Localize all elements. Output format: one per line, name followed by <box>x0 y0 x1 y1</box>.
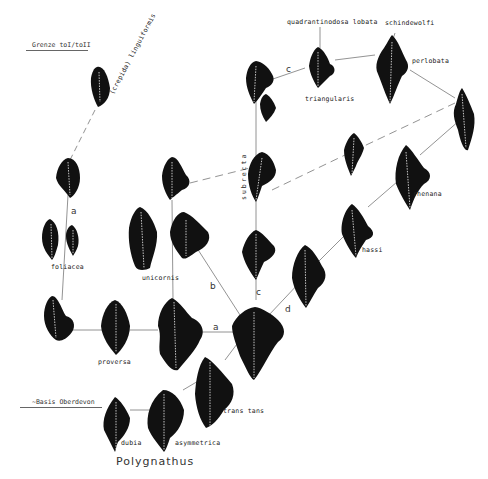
lineage-letter-d: d <box>285 304 291 314</box>
specimen-subrecta-small <box>260 94 276 122</box>
lineage-letter-a-left: a <box>71 206 77 216</box>
specimen-proversa <box>101 300 130 355</box>
specimen-transitans <box>195 357 234 428</box>
line-b <box>195 245 240 315</box>
label-triangularis: triangularis <box>305 95 354 103</box>
dashed-line-linguiformis <box>70 110 95 160</box>
line-unicornis-vertical <box>172 200 173 300</box>
line-schindewolfi-perlobata <box>410 70 455 98</box>
label-perlobata: perlobata <box>412 57 449 65</box>
label-transitans: trans tans <box>223 407 264 415</box>
specimen-quadrantinodosa-lobata <box>309 47 335 88</box>
horizon-label-bottom: ~Basis Oberdevon <box>32 398 95 406</box>
lineage-letter-a-bottom: a <box>213 322 219 332</box>
specimen-center <box>232 307 284 380</box>
specimen-unicornis-left <box>129 207 157 270</box>
line-lobata-schindewolfi <box>335 55 375 60</box>
horizon-line-bottom <box>20 407 102 408</box>
line-rhenana-perlobata <box>420 120 460 155</box>
lineage-letter-b: b <box>210 281 216 291</box>
label-hassi: hassi <box>362 246 383 254</box>
horizon-line-top <box>26 50 88 51</box>
label-unicornis: unicornis <box>142 274 179 282</box>
label-schindewolfi: schindewolfi <box>385 19 434 27</box>
specimen-bottom-left <box>44 296 74 341</box>
lineage-letter-c-mid: c <box>256 287 261 297</box>
specimen-unicornis-right <box>170 212 209 259</box>
phylogeny-diagram: Grenze toI/toII ~Basis Oberdevon (crepid… <box>0 0 488 479</box>
specimens <box>42 35 475 452</box>
specimen-left-top <box>56 158 80 198</box>
label-dubia: dubia <box>121 439 142 447</box>
lineage-letter-c-top: c <box>286 64 291 74</box>
label-asymmetrica: asymmetrica <box>175 439 220 447</box>
specimen-linguiformis <box>91 67 110 107</box>
specimen-rhenana <box>395 145 430 210</box>
label-foliacea: foliacea <box>51 263 84 271</box>
specimen-d <box>292 245 325 308</box>
specimen-foliacea-1 <box>42 219 59 260</box>
specimen-unicornis-top <box>162 157 189 200</box>
label-proversa: proversa <box>98 358 131 366</box>
specimen-center-left <box>158 298 203 370</box>
label-rhenana: rhenana <box>413 190 442 198</box>
horizon-label-top: Grenze toI/toII <box>32 41 91 49</box>
diagram-title: Polygnathus <box>116 455 194 468</box>
label-subrecta: subrecta <box>240 153 248 200</box>
specimen-below-subrecta <box>242 230 275 280</box>
label-quadrantinodosa-lobata: quadrantinodosa lobata <box>287 18 378 26</box>
line-left-vertical <box>62 195 68 300</box>
specimen-foliacea-2 <box>66 225 79 256</box>
